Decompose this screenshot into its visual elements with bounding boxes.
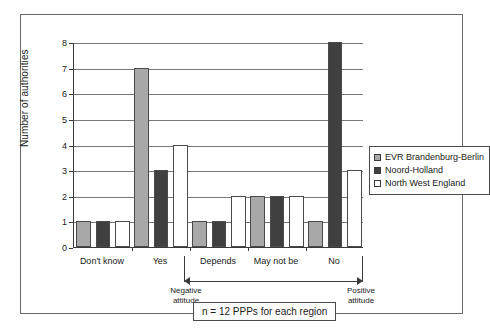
- positive-attitude-line2: attitude: [348, 296, 374, 305]
- figure-frame: Number of authorities 012345678 Don't kn…: [20, 14, 463, 314]
- gridline: [74, 171, 363, 172]
- bar-nwe-4: [347, 170, 362, 247]
- legend-item-evr: EVR Brandenburg-Berlin: [374, 151, 484, 164]
- attitude-scale-annotation: Negative attitude Positive attitude: [184, 256, 363, 300]
- bar-evr-2: [192, 221, 207, 247]
- bar-noord-2: [212, 221, 227, 247]
- x-axis-group-tick: [132, 247, 133, 251]
- x-axis-category-label: Yes: [153, 257, 168, 266]
- positive-attitude-label: Positive attitude: [331, 286, 391, 306]
- x-axis-group-tick: [306, 247, 307, 251]
- y-axis-tick-label: 1: [53, 218, 67, 227]
- bar-nwe-3: [289, 196, 304, 247]
- x-axis-category-label: Don't know: [80, 257, 124, 266]
- y-axis-tick-label: 6: [53, 90, 67, 99]
- gridline: [74, 94, 363, 95]
- legend-swatch-icon-evr: [374, 154, 381, 161]
- legend-item-noord: Noord-Holland: [374, 164, 484, 177]
- gridline: [74, 69, 363, 70]
- gridline: [74, 146, 363, 147]
- bar-evr-3: [250, 196, 265, 247]
- y-axis-tick-label: 8: [53, 39, 67, 48]
- legend-swatch-icon-noord: [374, 167, 381, 174]
- bar-evr-4: [308, 221, 323, 247]
- gridline: [74, 120, 363, 121]
- arrow-left-icon: [184, 277, 190, 285]
- negative-attitude-line1: Negative: [170, 286, 202, 295]
- bar-noord-1: [154, 170, 169, 247]
- y-axis-tick-mark: [69, 248, 73, 249]
- bar-nwe-1: [173, 145, 188, 248]
- attitude-arrow-line: [186, 281, 361, 282]
- gridline: [74, 197, 363, 198]
- bar-noord-0: [96, 221, 111, 247]
- x-axis-group-tick: [190, 247, 191, 251]
- legend-label-noord: Noord-Holland: [385, 166, 443, 175]
- bar-evr-0: [76, 221, 91, 247]
- bar-noord-4: [328, 42, 343, 247]
- y-axis-tick-label: 3: [53, 167, 67, 176]
- plot-area: [73, 43, 363, 248]
- bar-nwe-2: [231, 196, 246, 247]
- arrow-right-icon: [357, 277, 363, 285]
- y-axis-tick-label: 2: [53, 192, 67, 201]
- x-axis-group-tick: [248, 247, 249, 251]
- y-axis-tick-label: 5: [53, 115, 67, 124]
- y-axis-title: Number of authorities: [19, 49, 30, 147]
- bar-noord-3: [270, 196, 285, 247]
- positive-attitude-line1: Positive: [347, 286, 375, 295]
- y-axis-tick-label: 0: [53, 244, 67, 253]
- sample-size-footnote: n = 12 PPPs for each region: [193, 302, 336, 321]
- legend-item-nwe: North West England: [374, 177, 484, 190]
- bar-nwe-0: [115, 221, 130, 247]
- gridline: [74, 43, 363, 44]
- bar-evr-1: [134, 68, 149, 247]
- chart-legend: EVR Brandenburg-Berlin Noord-Holland Nor…: [369, 146, 490, 195]
- y-axis-tick-label: 4: [53, 141, 67, 150]
- legend-swatch-icon-nwe: [374, 180, 381, 187]
- legend-label-evr: EVR Brandenburg-Berlin: [385, 153, 484, 162]
- y-axis-tick-label: 7: [53, 64, 67, 73]
- legend-label-nwe: North West England: [385, 179, 465, 188]
